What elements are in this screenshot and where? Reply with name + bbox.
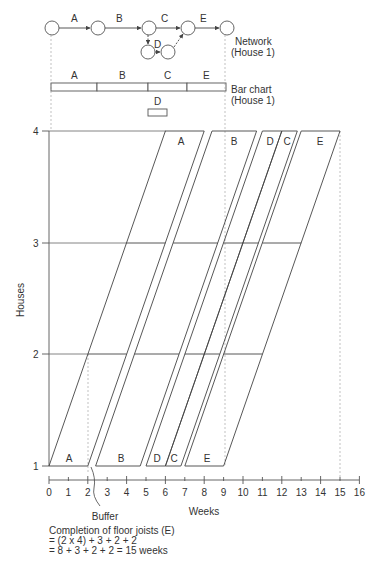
x-tick-5: 5 [143,487,149,498]
network-node-5 [220,21,234,35]
lob-label-b-bottom: B [118,453,125,464]
network-label-c: C [161,13,168,24]
network-node-d2 [161,45,175,59]
x-tick-15: 15 [334,487,346,498]
bar-chart [51,83,226,116]
bar-label-c: C [164,70,171,81]
x-tick-10: 10 [237,487,249,498]
x-tick-9: 9 [221,487,227,498]
lob-label-b-top: B [231,136,238,147]
network-node-2 [91,21,105,35]
bar-b [97,83,148,91]
network-label-e: E [200,13,207,24]
network-arrows [59,28,219,52]
lob-activity-b [96,131,257,466]
lob-label-c-top: C [283,136,290,147]
arrow-dummy-up [174,34,183,47]
completion-formula: Completion of floor joists (E) = (2 x 4)… [49,525,175,556]
x-tick-14: 14 [315,487,327,498]
lob-label-c-bottom: C [170,453,177,464]
y-axis [42,131,49,466]
network-node-1 [45,21,59,35]
x-tick-3: 3 [104,487,110,498]
lob-activity-a [49,131,204,466]
network-diagram [45,21,234,59]
formula-line-3: = 8 + 3 + 2 + 2 = 15 weeks [49,545,168,556]
y-axis-label: Houses [15,283,26,317]
lob-label-d-bottom: D [153,453,160,464]
x-tick-2: 2 [85,487,91,498]
buffer-label: Buffer [92,511,119,522]
reference-lines [51,35,340,480]
network-label-a: A [71,13,78,24]
x-axis [49,476,359,484]
lob-activity-c [165,131,297,466]
y-tick-1: 1 [33,461,39,472]
lob-activity-e [185,131,340,466]
line-of-balance-diagram: A B C E D Network (House 1) A B C E D Ba… [0,0,379,568]
network-label-d: D [154,39,161,50]
x-tick-0: 0 [46,487,52,498]
x-tick-8: 8 [201,487,207,498]
y-axis-ticks: 4 3 2 1 [33,126,39,472]
bar-caption-1: Bar chart [231,84,272,95]
x-tick-16: 16 [354,487,366,498]
buffer-pointer [91,467,100,506]
lob-activity-d [146,131,282,466]
network-node-4 [181,21,195,35]
x-tick-13: 13 [296,487,308,498]
network-node-d1 [141,45,155,59]
y-tick-3: 3 [33,238,39,249]
x-tick-12: 12 [276,487,288,498]
x-tick-1: 1 [66,487,72,498]
bar-d [148,109,167,116]
bar-label-d: D [154,96,161,107]
x-tick-4: 4 [124,487,130,498]
lob-label-e-bottom: E [204,453,211,464]
lob-labels: A B D C E A B D C E [66,136,324,464]
x-tick-11: 11 [257,487,268,498]
lob-activities [49,131,340,466]
lob-label-a-top: A [178,136,185,147]
network-node-3 [142,21,156,35]
network-label-b: B [116,13,123,24]
x-axis-label: Weeks [189,506,219,517]
lob-label-e-top: E [317,136,324,147]
x-tick-7: 7 [182,487,188,498]
bar-c [148,83,187,91]
house-lines [49,131,166,354]
bar-label-a: A [71,70,78,81]
y-tick-2: 2 [33,349,39,360]
x-tick-6: 6 [163,487,169,498]
bar-e [187,83,226,91]
bar-label-b: B [119,70,126,81]
lob-label-d-top: D [266,136,273,147]
y-tick-4: 4 [33,126,39,137]
bar-label-e: E [203,70,210,81]
lob-label-a-bottom: A [66,453,73,464]
network-caption-2: (House 1) [231,47,275,58]
network-caption-1: Network [235,36,273,47]
bar-a [51,83,97,91]
bar-caption-2: (House 1) [231,95,275,106]
